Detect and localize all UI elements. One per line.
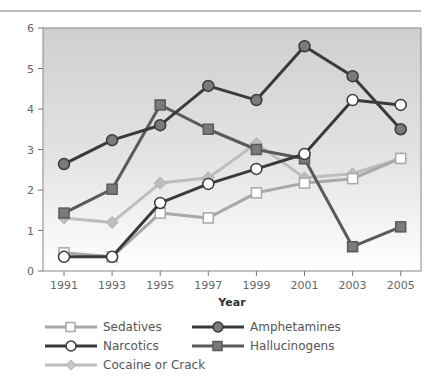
data-point xyxy=(395,99,406,110)
legend-label: Amphetamines xyxy=(250,320,341,334)
legend: Sedatives Amphetamines Narcotics Halluci… xyxy=(30,318,430,378)
x-tick-label: 1993 xyxy=(98,279,126,292)
data-point xyxy=(396,222,406,232)
legend-swatch-narcotics xyxy=(45,340,97,352)
data-point xyxy=(155,120,166,131)
plot-area xyxy=(43,28,421,271)
line-chart: 0123456 19911993199519971999200120032005… xyxy=(0,0,443,388)
data-point xyxy=(347,71,358,82)
data-point xyxy=(203,124,213,134)
data-point xyxy=(348,242,358,252)
data-point xyxy=(107,251,118,262)
data-point xyxy=(251,95,262,106)
legend-label: Hallucinogens xyxy=(250,339,334,353)
data-point xyxy=(300,178,310,188)
x-axis-title: Year xyxy=(217,296,246,309)
y-tick-label: 0 xyxy=(27,265,34,278)
y-tick-label: 2 xyxy=(27,184,34,197)
legend-item-sedatives: Sedatives xyxy=(45,318,162,336)
legend-item-narcotics: Narcotics xyxy=(45,337,159,355)
y-tick-label: 6 xyxy=(27,22,34,35)
x-tick-label: 1997 xyxy=(194,279,222,292)
legend-item-hallucinogens: Hallucinogens xyxy=(192,337,334,355)
data-point xyxy=(155,100,165,110)
x-tick-label: 2003 xyxy=(339,279,367,292)
legend-item-cocaine: Cocaine or Crack xyxy=(45,356,205,374)
x-tick-label: 2005 xyxy=(387,279,415,292)
data-point xyxy=(203,213,213,223)
x-tick-label: 2001 xyxy=(291,279,319,292)
y-tick-label: 4 xyxy=(27,103,34,116)
data-point xyxy=(299,41,310,52)
x-tick-label: 1991 xyxy=(50,279,78,292)
legend-label: Cocaine or Crack xyxy=(103,358,205,372)
legend-swatch-sedatives xyxy=(45,321,97,333)
data-point xyxy=(299,148,310,159)
data-point xyxy=(155,197,166,208)
data-point xyxy=(395,124,406,135)
data-point xyxy=(347,95,358,106)
x-tick-label: 1995 xyxy=(146,279,174,292)
data-point xyxy=(251,163,262,174)
data-point xyxy=(107,135,118,146)
legend-swatch-hallucinogens xyxy=(192,340,244,352)
data-point xyxy=(155,208,165,218)
data-point xyxy=(107,184,117,194)
legend-label: Sedatives xyxy=(103,320,162,334)
data-point xyxy=(396,153,406,163)
data-point xyxy=(203,80,214,91)
legend-swatch-cocaine xyxy=(45,359,97,371)
data-point xyxy=(59,208,69,218)
data-point xyxy=(251,188,261,198)
x-axis: 19911993199519971999200120032005 xyxy=(50,271,415,292)
data-point xyxy=(348,174,358,184)
x-tick-label: 1999 xyxy=(242,279,270,292)
legend-item-amphetamines: Amphetamines xyxy=(192,318,341,336)
y-tick-label: 5 xyxy=(27,63,34,76)
data-point xyxy=(59,159,70,170)
y-tick-label: 3 xyxy=(27,144,34,157)
data-point xyxy=(59,251,70,262)
data-point xyxy=(251,145,261,155)
y-axis: 0123456 xyxy=(27,22,43,278)
legend-label: Narcotics xyxy=(103,339,159,353)
legend-swatch-amphetamines xyxy=(192,321,244,333)
data-point xyxy=(203,178,214,189)
y-tick-label: 1 xyxy=(27,225,34,238)
